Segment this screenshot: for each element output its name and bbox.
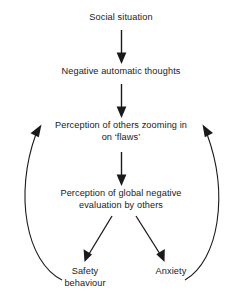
flow-diagram: Social situation Negative automatic thou…: [0, 0, 241, 304]
arrow-perception-others-to-perception-global: [117, 152, 127, 186]
arrow-social-situation-to-negative-thoughts: [117, 30, 127, 64]
arrow-perception-global-to-safety-behaviour: [84, 216, 112, 262]
arrow-negative-thoughts-to-perception-others: [117, 84, 127, 118]
arrow-perception-global-to-anxiety: [136, 216, 165, 262]
curve-anxiety-feedback-loop: [185, 125, 219, 281]
diagram-connectors-layer: [0, 0, 241, 304]
curve-safety-behaviour-feedback-loop: [25, 125, 62, 281]
